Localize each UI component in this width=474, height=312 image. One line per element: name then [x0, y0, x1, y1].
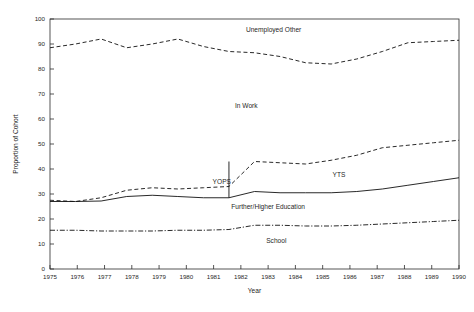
- y-axis-title: Proportion of Cohort: [12, 114, 20, 174]
- series-line-further-higher-education: [50, 178, 459, 202]
- y-tick-label: 90: [38, 40, 45, 47]
- y-tick-label: 50: [38, 140, 45, 147]
- y-tick-label: 20: [38, 215, 45, 222]
- series-line-yts: [50, 140, 459, 201]
- series-label-further-higher-education: Further/Higher Education: [231, 203, 305, 211]
- y-tick-label: 0: [42, 265, 46, 272]
- x-tick-label: 1986: [343, 273, 357, 280]
- y-tick-label: 80: [38, 65, 45, 72]
- x-axis-title: Year: [248, 287, 262, 294]
- x-tick-label: 1982: [234, 273, 248, 280]
- line-chart: 0102030405060708090100 19751976197719781…: [0, 0, 474, 312]
- series-label-school: School: [266, 237, 287, 244]
- y-tick-label: 30: [38, 190, 45, 197]
- x-tick-label: 1988: [398, 273, 412, 280]
- x-tick-label: 1975: [43, 273, 57, 280]
- series-line-unemployed-other: [50, 39, 459, 64]
- series-label-yts: YTS: [333, 171, 346, 178]
- x-tick-label: 1987: [370, 273, 384, 280]
- y-axis-tick-labels: 0102030405060708090100: [35, 15, 46, 272]
- x-tick-label: 1977: [98, 273, 112, 280]
- y-tick-label: 10: [38, 240, 45, 247]
- series-label-in-work: In Work: [235, 102, 258, 109]
- y-tick-label: 100: [35, 15, 46, 22]
- x-tick-label: 1983: [261, 273, 275, 280]
- chart-container: 0102030405060708090100 19751976197719781…: [0, 0, 474, 312]
- x-tick-label: 1976: [70, 273, 84, 280]
- plot-frame: [50, 19, 459, 269]
- x-tick-label: 1990: [452, 273, 466, 280]
- series-label-yops: YOPS: [213, 178, 232, 185]
- y-tick-label: 40: [38, 165, 45, 172]
- x-tick-label: 1978: [125, 273, 139, 280]
- series-inline-labels: Unemployed OtherIn WorkYTSYOPSFurther/Hi…: [213, 26, 346, 244]
- x-tick-label: 1981: [207, 273, 221, 280]
- axis-ticks: [50, 19, 459, 269]
- x-tick-label: 1985: [316, 273, 330, 280]
- chart-axes: [50, 19, 459, 269]
- x-tick-label: 1989: [425, 273, 439, 280]
- x-tick-label: 1984: [289, 273, 303, 280]
- y-tick-label: 60: [38, 115, 45, 122]
- x-tick-label: 1979: [152, 273, 166, 280]
- x-tick-label: 1980: [179, 273, 193, 280]
- series-label-unemployed-other: Unemployed Other: [246, 26, 302, 34]
- series-line-school: [50, 220, 459, 231]
- y-tick-label: 70: [38, 90, 45, 97]
- x-axis-tick-labels: 1975197619771978197919801981198219831984…: [43, 273, 466, 280]
